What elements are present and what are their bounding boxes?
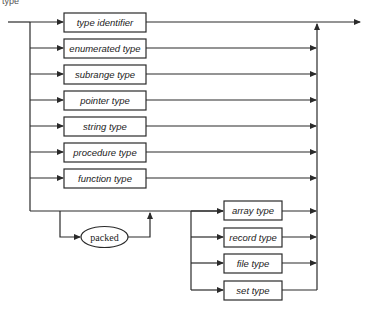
node-function-type: function type (30, 169, 316, 188)
node-file-type: file type (191, 254, 316, 273)
packed-keyword: packed (90, 232, 118, 243)
node-set-type: set type (191, 281, 317, 300)
svg-text:file type: file type (237, 258, 270, 269)
node-enumerated-type: enumerated type (30, 39, 316, 58)
node-record-type: record type (191, 228, 316, 247)
node-array-type: array type (191, 201, 316, 220)
svg-text:procedure type: procedure type (72, 147, 136, 158)
node-procedure-type: procedure type (30, 143, 316, 162)
svg-text:array type: array type (232, 205, 274, 216)
syntax-diagram: type type identifier enumerated type sub… (0, 0, 369, 309)
title-fragment: type (2, 0, 19, 6)
svg-text:record type: record type (229, 232, 277, 243)
svg-text:enumerated type: enumerated type (69, 43, 140, 54)
packed-branch: packed (60, 211, 150, 248)
svg-text:pointer type: pointer type (79, 95, 130, 106)
node-type-identifier: type identifier (30, 13, 146, 32)
node-string-type: string type (30, 117, 316, 136)
node-pointer-type: pointer type (30, 91, 316, 110)
svg-text:function type: function type (78, 173, 132, 184)
svg-text:set type: set type (236, 285, 269, 296)
svg-text:string type: string type (83, 121, 127, 132)
node-subrange-type: subrange type (30, 65, 316, 84)
svg-text:subrange type: subrange type (75, 69, 135, 80)
svg-text:type identifier: type identifier (77, 17, 134, 28)
